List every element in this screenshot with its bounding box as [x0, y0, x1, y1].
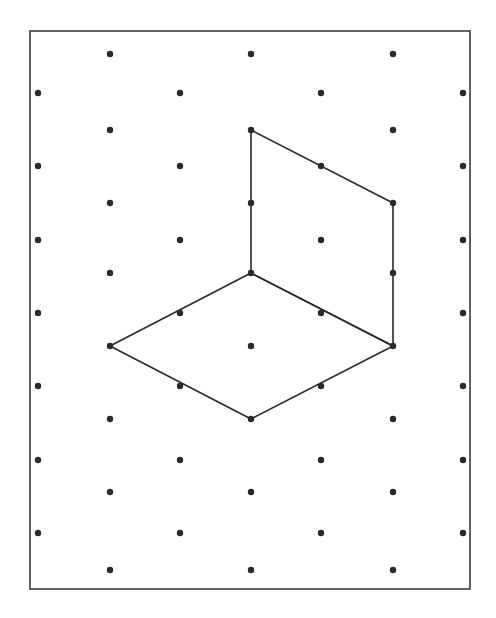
grid-dot	[460, 383, 466, 389]
grid-dot	[248, 567, 254, 573]
grid-dot	[35, 530, 41, 536]
grid-dot	[460, 530, 466, 536]
background	[0, 0, 496, 618]
grid-dot	[177, 237, 183, 243]
grid-dot	[35, 237, 41, 243]
grid-dot	[35, 457, 41, 463]
grid-dot	[107, 270, 113, 276]
grid-dot	[460, 237, 466, 243]
grid-dot	[107, 489, 113, 495]
grid-dot	[177, 90, 183, 96]
grid-dot	[390, 51, 396, 57]
grid-dot	[107, 567, 113, 573]
grid-dot	[35, 163, 41, 169]
isometric-dot-diagram	[0, 0, 496, 618]
grid-dot	[318, 457, 324, 463]
grid-dot	[35, 310, 41, 316]
grid-dot	[318, 90, 324, 96]
grid-dot	[460, 90, 466, 96]
grid-dot	[107, 127, 113, 133]
grid-dot	[460, 310, 466, 316]
grid-dot	[390, 567, 396, 573]
grid-dot	[107, 416, 113, 422]
grid-dot	[318, 530, 324, 536]
grid-dot	[460, 163, 466, 169]
grid-dot	[177, 530, 183, 536]
grid-dot	[390, 489, 396, 495]
grid-dot	[390, 416, 396, 422]
grid-dot	[318, 237, 324, 243]
grid-dot	[248, 489, 254, 495]
grid-dot	[248, 51, 254, 57]
grid-dot	[177, 457, 183, 463]
grid-dot	[460, 457, 466, 463]
grid-dot	[35, 383, 41, 389]
grid-dot	[35, 90, 41, 96]
grid-dot	[107, 200, 113, 206]
grid-dot	[177, 163, 183, 169]
grid-dot	[107, 51, 113, 57]
grid-dot	[390, 127, 396, 133]
grid-dot	[248, 343, 254, 349]
